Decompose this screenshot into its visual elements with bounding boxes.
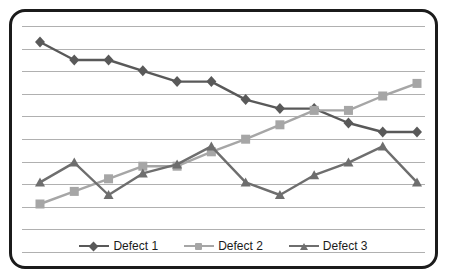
series-line-1 — [40, 42, 417, 132]
chart-legend: Defect 1Defect 2Defect 3 — [12, 240, 435, 252]
series-1 — [35, 37, 422, 138]
legend-swatch-diamond-icon — [79, 240, 109, 252]
data-point-marker — [275, 120, 284, 129]
data-point-marker — [206, 141, 216, 150]
legend-label: Defect 3 — [323, 240, 368, 252]
legend-item-3[interactable]: Defect 3 — [289, 240, 368, 252]
series-2 — [36, 79, 422, 209]
legend-item-2[interactable]: Defect 2 — [184, 240, 263, 252]
legend-label: Defect 1 — [113, 240, 158, 252]
chart-frame: Defect 1Defect 2Defect 3 — [9, 9, 438, 269]
data-point-marker — [104, 55, 114, 66]
data-point-marker — [104, 174, 113, 183]
data-point-marker — [412, 127, 422, 138]
data-point-marker — [172, 76, 182, 87]
legend-swatch-triangle-icon — [289, 240, 319, 252]
data-point-marker — [275, 103, 285, 114]
legend-label: Defect 2 — [218, 240, 263, 252]
data-point-marker — [413, 79, 422, 88]
data-point-marker — [69, 55, 79, 66]
data-point-marker — [35, 37, 45, 48]
data-point-marker — [138, 65, 148, 76]
data-point-marker — [206, 76, 216, 87]
series-3 — [35, 141, 422, 199]
series-line-2 — [40, 83, 417, 204]
series-layer — [35, 37, 422, 209]
legend-swatch-square-icon — [184, 240, 214, 252]
line-chart-canvas — [12, 12, 435, 266]
data-point-marker — [36, 200, 45, 209]
data-point-marker — [378, 92, 387, 101]
data-point-marker — [378, 127, 388, 138]
data-point-marker — [35, 177, 45, 186]
series-line-3 — [40, 146, 417, 195]
legend-item-1[interactable]: Defect 1 — [79, 240, 158, 252]
data-point-marker — [378, 141, 388, 150]
data-point-marker — [241, 94, 251, 105]
data-point-marker — [343, 118, 353, 129]
plot-area — [12, 12, 435, 266]
data-point-marker — [70, 187, 79, 196]
data-point-marker — [241, 135, 250, 144]
data-point-marker — [344, 106, 353, 115]
data-point-marker — [310, 106, 319, 115]
